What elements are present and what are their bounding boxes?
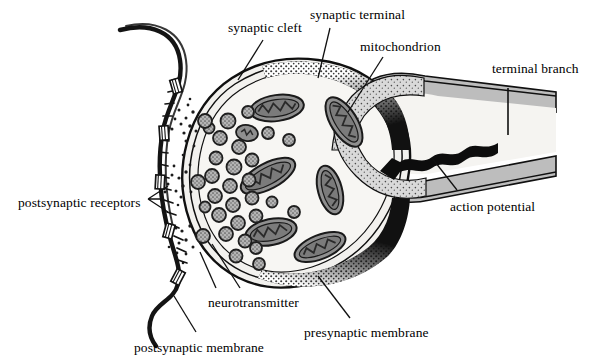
synaptic-vesicle: [232, 140, 246, 154]
synaptic-vesicle: [288, 206, 300, 218]
postsynaptic-receptor: [155, 175, 165, 189]
synapse-diagram: [0, 0, 599, 364]
label-neurotransmitter: neurotransmitter: [208, 296, 299, 310]
synaptic-vesicle: [262, 127, 274, 139]
synaptic-vesicle: [221, 114, 236, 129]
label-postsynaptic-receptors: postsynaptic receptors: [18, 196, 141, 210]
synaptic-vesicle: [250, 210, 263, 223]
synaptic-vesicle: [223, 179, 237, 193]
synaptic-vesicle: [227, 160, 242, 175]
synaptic-vesicle: [231, 216, 245, 230]
synaptic-vesicle: [219, 227, 233, 241]
label-action-potential: action potential: [450, 200, 535, 214]
synaptic-vesicle: [267, 197, 278, 208]
postsynaptic-receptor: [159, 126, 169, 141]
synaptic-vesicle: [200, 202, 211, 213]
synaptic-vesicle: [243, 174, 256, 187]
label-synaptic-terminal: synaptic terminal: [310, 8, 405, 22]
label-terminal-branch: terminal branch: [492, 62, 579, 76]
synaptic-vesicle: [242, 106, 254, 118]
label-synaptic-cleft: synaptic cleft: [228, 21, 302, 35]
synaptic-vesicle: [208, 189, 222, 203]
synaptic-vesicle: [246, 154, 259, 167]
synaptic-vesicle: [205, 169, 219, 183]
synaptic-vesicle: [210, 152, 223, 165]
synaptic-vesicle: [253, 258, 265, 270]
label-postsynaptic-membrane: postsynaptic membrane: [134, 341, 264, 355]
synaptic-vesicle: [283, 134, 295, 146]
synaptic-vesicle: [226, 198, 240, 212]
label-mitochondrion: mitochondrion: [360, 40, 441, 54]
label-presynaptic-membrane: presynaptic membrane: [304, 326, 429, 340]
synaptic-vesicle: [213, 131, 227, 145]
figure-canvas: synaptic cleft synaptic terminal mitocho…: [0, 0, 599, 364]
synaptic-vesicle: [212, 208, 226, 222]
synaptic-vesicle: [246, 192, 259, 205]
synaptic-vesicle: [230, 250, 243, 263]
synaptic-vesicle: [250, 242, 262, 254]
